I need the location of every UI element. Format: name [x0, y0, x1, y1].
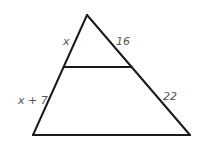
left-side — [33, 15, 87, 135]
right-side — [87, 15, 190, 135]
label-left-lower: x + 7 — [17, 94, 48, 107]
label-left-upper: x — [62, 35, 70, 48]
label-right-lower: 22 — [163, 90, 177, 103]
triangle-diagram: x 16 x + 7 22 — [0, 0, 202, 150]
label-right-upper: 16 — [116, 35, 130, 48]
